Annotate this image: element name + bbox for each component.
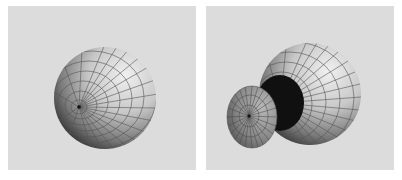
panel-left-sphere — [8, 6, 196, 170]
sphere-render — [8, 6, 196, 170]
sphere-cap-render — [206, 6, 394, 170]
panel-right-sphere-with-cap — [206, 6, 394, 170]
sphere-pole — [77, 105, 81, 109]
cap-pole — [247, 114, 250, 117]
